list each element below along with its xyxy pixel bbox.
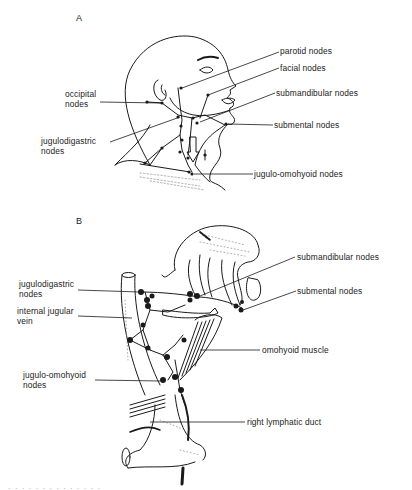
label-a-facial-nodes: facial nodes <box>280 63 326 73</box>
label-a-submental-nodes: submental nodes <box>274 120 339 130</box>
label-b-jugulo-omohyoid-nodes: jugulo-omohyoid nodes <box>23 370 86 390</box>
panel-b-letter: B <box>76 216 82 226</box>
label-a-occipital-nodes: occipital nodes <box>65 89 96 109</box>
label-a-parotid-nodes: parotid nodes <box>280 46 332 56</box>
label-b-right-lymphatic-duct: right lymphatic duct <box>247 417 321 427</box>
label-b-submental-nodes: submental nodes <box>297 286 362 296</box>
anatomy-drawing <box>0 0 412 490</box>
label-a-jugulodigastric-nodes: jugulodigastric nodes <box>41 136 96 156</box>
leader-lines <box>78 52 296 422</box>
label-a-jugulo-omohyoid-nodes: jugulo-omohyoid nodes <box>254 169 343 179</box>
caption-fragment: · · · · · · · · · · · · · · <box>8 484 101 490</box>
label-b-omohyoid-muscle: omohyoid muscle <box>262 345 329 355</box>
panel-a-letter: A <box>76 13 82 23</box>
panel-a-head <box>115 36 236 190</box>
panel-b-structures <box>121 226 260 484</box>
label-b-submandibular-nodes: submandibular nodes <box>297 252 379 262</box>
label-a-submandibular-nodes: submandibular nodes <box>276 88 358 98</box>
label-b-internal-jugular-vein: internal jugular vein <box>17 306 74 326</box>
label-b-jugulodigastric-nodes: jugulodigastric nodes <box>19 279 74 299</box>
